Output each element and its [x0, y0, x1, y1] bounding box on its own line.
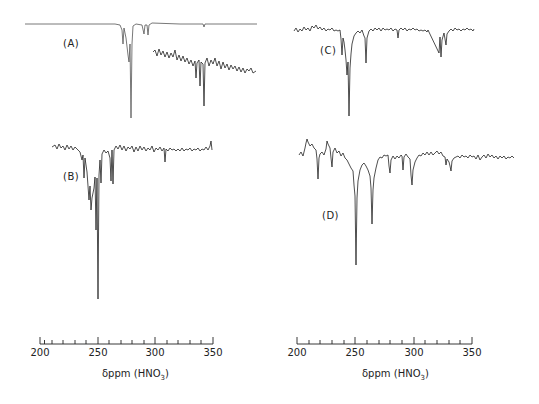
right-axis-label-text: δppm (HNO	[362, 368, 421, 379]
spectrum-a	[25, 23, 257, 118]
panel-label-d: (D)	[322, 210, 339, 221]
left-tick-250: 250	[88, 347, 107, 358]
left-axis-label-close: )	[165, 368, 169, 379]
right-axis-label: δppm (HNO3)	[362, 368, 429, 382]
spectrum-a-inset	[153, 49, 256, 106]
right-x-axis	[297, 337, 472, 344]
left-axis-label-text: δppm (HNO	[102, 368, 161, 379]
spectrum-c	[294, 25, 474, 116]
right-axis-label-close: )	[425, 368, 429, 379]
left-tick-200: 200	[30, 347, 49, 358]
panel-label-b: (B)	[63, 171, 79, 182]
left-x-axis	[40, 337, 213, 344]
right-tick-300: 300	[404, 347, 423, 358]
left-tick-300: 300	[145, 347, 164, 358]
panel-label-a: (A)	[63, 38, 79, 49]
right-tick-350: 350	[462, 347, 481, 358]
left-tick-350: 350	[203, 347, 222, 358]
nmr-spectra-figure	[0, 0, 539, 404]
panel-label-c: (C)	[320, 45, 336, 56]
right-tick-250: 250	[345, 347, 364, 358]
spectrum-d	[299, 139, 514, 265]
left-axis-label: δppm (HNO3)	[102, 368, 169, 382]
right-tick-200: 200	[287, 347, 306, 358]
spectrum-b	[52, 141, 212, 299]
